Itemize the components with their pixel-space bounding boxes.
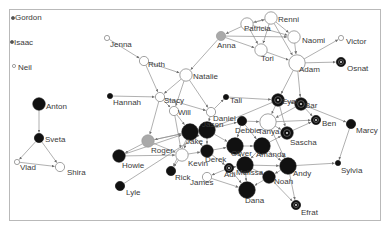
node-naomi[interactable] [288,31,300,43]
node-circle[interactable] [223,94,228,99]
node-label-tali: Tali [230,96,242,105]
node-label-oliver: Oliver [231,149,252,158]
node-label-hannah: Hannah [113,98,141,107]
node-label-ruth: Ruth [148,60,165,69]
node-label-sascha: Sascha [290,138,317,147]
node-center-dot [300,103,302,105]
node-circle[interactable] [14,159,19,164]
node-hannah[interactable] [107,93,112,98]
node-neil[interactable] [12,64,15,67]
node-anna[interactable] [216,31,225,40]
node-label-patricia: Patricia [244,24,271,33]
node-victor[interactable] [338,35,343,40]
node-label-noah: Noah [274,177,293,186]
node-label-andy: Andy [293,169,311,178]
node-label-bar: Bar [305,101,318,110]
node-label-naomi: Naomi [302,36,325,45]
node-center-dot [228,167,230,169]
node-label-vlad: Vlad [20,163,36,172]
node-label-roger: Roger [151,146,173,155]
node-label-eyal: Eyal [282,97,298,106]
node-label-jenna: Jenna [110,40,132,49]
node-center-dot [295,204,297,206]
node-efrat[interactable] [291,200,300,209]
node-circle[interactable] [107,93,112,98]
node-jenna[interactable] [104,35,109,40]
node-tali[interactable] [223,94,228,99]
node-circle[interactable] [265,12,277,24]
node-kevin[interactable] [176,149,188,161]
node-label-james: James [190,178,214,187]
node-renni[interactable] [265,12,277,24]
node-center-dot [340,61,342,63]
node-lyle[interactable] [115,181,124,190]
node-label-victor: Victor [346,37,367,46]
node-label-adam: Adam [299,65,320,74]
node-circle[interactable] [237,116,246,125]
node-circle[interactable] [216,31,225,40]
node-label-sveta: Sveta [45,135,66,144]
node-label-osnat: Osnat [347,64,369,73]
node-label-dana: Dana [245,196,265,205]
node-label-shira: Shira [67,168,86,177]
node-label-anton: Anton [46,102,67,111]
node-ben[interactable] [311,115,320,124]
node-center-dot [315,119,317,121]
node-label-efrat: Efrat [301,208,319,217]
node-label-melissa: Melissa [236,168,264,177]
node-circle[interactable] [338,35,343,40]
node-label-isaac: Isaac [14,38,33,47]
node-label-neil: Neil [18,63,32,72]
node-circle[interactable] [33,98,45,110]
node-marcy[interactable] [346,119,355,128]
node-label-will: Will [178,108,191,117]
node-vlad[interactable] [14,159,19,164]
node-label-gordon: Gordon [15,13,42,22]
node-label-tanya: Tanya [258,127,280,136]
node-label-marcy: Marcy [356,126,378,135]
node-anton[interactable] [33,98,45,110]
node-circle[interactable] [346,119,355,128]
node-circle[interactable] [115,181,124,190]
node-osnat[interactable] [336,57,345,66]
node-circle[interactable] [288,31,300,43]
node-natalie[interactable] [180,69,192,81]
network-graph: GordonIsaacNeilAntonSvetaVladShiraJennaR… [0,0,388,230]
node-circle[interactable] [34,133,43,142]
node-label-howie: Howie [122,161,145,170]
node-circle[interactable] [12,64,15,67]
node-circle[interactable] [176,149,188,161]
node-label-anna: Anna [217,41,236,50]
node-circle[interactable] [104,35,109,40]
node-label-adi: Adi [224,170,236,179]
node-label-sylvia: Sylvia [341,166,363,175]
node-label-natalie: Natalie [193,72,218,81]
node-label-tori: Tori [261,54,274,63]
node-circle[interactable] [335,160,340,165]
node-label-renni: Renni [278,15,299,24]
node-label-amanda: Amanda [256,150,286,159]
node-circle[interactable] [180,69,192,81]
node-label-derek: Derek [205,155,227,164]
node-label-jake: Jake [186,137,203,146]
node-label-stacy: Stacy [164,96,184,105]
node-sylvia[interactable] [335,160,340,165]
node-circle[interactable] [55,162,64,171]
node-label-ben: Ben [322,119,336,128]
node-center-dot [286,132,288,134]
node-label-jason: Jason [202,120,223,129]
node-debbie[interactable] [237,116,246,125]
node-center-dot [277,99,279,101]
node-shira[interactable] [55,162,64,171]
node-sveta[interactable] [34,133,43,142]
node-label-lyle: Lyle [126,188,141,197]
